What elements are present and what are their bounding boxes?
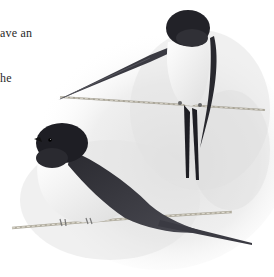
swallows-illustration [0,0,274,277]
